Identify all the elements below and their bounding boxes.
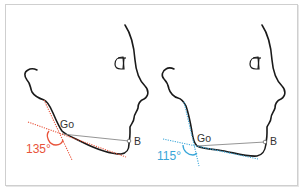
right-angle-label: 115°	[157, 150, 181, 162]
right-eye-icon	[250, 57, 261, 69]
left-face-outline	[25, 25, 148, 154]
left-gonion-label: Go	[60, 119, 74, 130]
left-b-point-label: B	[134, 136, 141, 147]
right-profile	[162, 25, 285, 166]
right-b-point	[263, 140, 267, 144]
right-b-point-label: B	[270, 136, 277, 147]
left-eye-icon	[115, 57, 126, 69]
left-b-point	[127, 139, 131, 143]
cephalometric-diagram	[0, 0, 301, 189]
right-gonion-label: Go	[197, 133, 211, 144]
right-face-outline	[162, 25, 285, 156]
left-angle-label: 135°	[26, 143, 51, 155]
left-profile	[25, 25, 148, 160]
